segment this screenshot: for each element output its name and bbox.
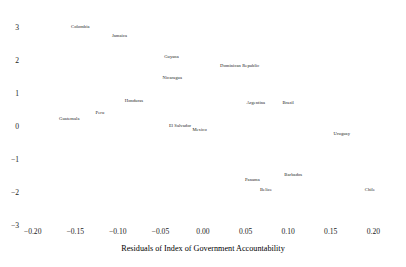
y-axis-tick-label: −2 bbox=[11, 189, 19, 197]
data-point-label: Barbados bbox=[284, 173, 302, 178]
x-axis: −0.20−0.15−0.10−0.050.000.050.100.150.20 bbox=[22, 228, 384, 240]
data-point-label: Nicaragua bbox=[163, 76, 182, 81]
data-point-label: Guatemala bbox=[59, 117, 79, 122]
y-axis-tick-label: 2 bbox=[15, 57, 19, 65]
data-point-label: Guyana bbox=[164, 55, 179, 60]
data-point-label: Uruguay bbox=[334, 132, 351, 137]
x-axis-title: Residuals of Index of Government Account… bbox=[0, 245, 406, 253]
data-point-label: Brazil bbox=[282, 101, 294, 106]
x-axis-tick-label: 0.10 bbox=[282, 228, 295, 236]
data-point-label: Panama bbox=[245, 177, 260, 182]
x-axis-tick-label: −0.05 bbox=[152, 228, 170, 236]
plot-area: ColombiaJamaicaGuyanaDominican RepublicN… bbox=[22, 10, 384, 224]
x-axis-tick-label: 0.20 bbox=[367, 228, 380, 236]
x-axis-tick-label: −0.10 bbox=[109, 228, 127, 236]
scatter-plot-figure: ColombiaJamaicaGuyanaDominican RepublicN… bbox=[0, 0, 406, 267]
x-axis-tick-label: 0.15 bbox=[324, 228, 337, 236]
data-point-label: Argentina bbox=[246, 101, 265, 106]
data-point-label: Peru bbox=[96, 110, 105, 115]
y-axis: 3210−1−2−3 bbox=[0, 10, 19, 224]
data-point-label: Belize bbox=[260, 187, 272, 192]
y-axis-tick-label: 1 bbox=[15, 90, 19, 98]
data-point-label: Colombia bbox=[71, 25, 90, 30]
data-point-label: Honduras bbox=[125, 98, 143, 103]
x-axis-tick-label: 0.00 bbox=[196, 228, 209, 236]
x-axis-tick-label: −0.15 bbox=[66, 228, 84, 236]
x-axis-tick-label: −0.20 bbox=[24, 228, 42, 236]
data-point-label: Chile bbox=[365, 188, 375, 193]
y-axis-tick-label: −3 bbox=[11, 222, 19, 230]
data-point-label: Jamaica bbox=[112, 33, 127, 38]
data-point-label: El Salvador bbox=[169, 124, 191, 129]
data-point-label: Mexico bbox=[192, 128, 206, 133]
y-axis-tick-label: −1 bbox=[11, 156, 19, 164]
y-axis-tick-label: 0 bbox=[15, 123, 19, 131]
x-axis-tick-label: 0.05 bbox=[239, 228, 252, 236]
data-point-label: Dominican Republic bbox=[220, 64, 259, 69]
y-axis-tick-label: 3 bbox=[15, 24, 19, 32]
